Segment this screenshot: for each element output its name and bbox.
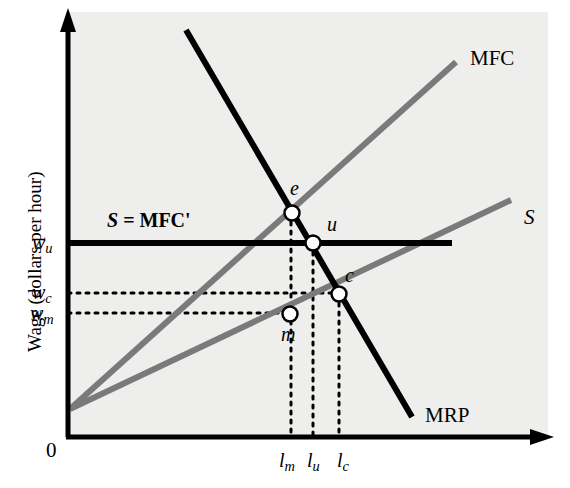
x-tick-label-lm: lm (279, 450, 295, 473)
chart-canvas (0, 0, 570, 488)
y-tick-wc-base: w (32, 281, 45, 303)
y-tick-wu-sub: u (45, 240, 52, 256)
supply-curve-label: S (524, 207, 535, 228)
marker-point-m (283, 307, 298, 322)
origin-label: 0 (46, 440, 57, 461)
union-label-s: S (107, 209, 118, 231)
y-tick-label-wu: wu (32, 232, 53, 255)
marker-point-e (285, 206, 300, 221)
point-label-u: u (327, 214, 337, 234)
mfc-curve-label: MFC (470, 48, 514, 69)
point-label-m: m (281, 324, 295, 344)
y-tick-wu-base: w (32, 231, 45, 253)
union-wage-line-label: S = MFC' (107, 210, 191, 230)
y-tick-label-wm: wm (30, 303, 54, 326)
union-label-rest: = MFC' (118, 209, 191, 231)
marker-point-c (332, 287, 347, 302)
y-tick-wm-base: w (30, 302, 43, 324)
point-label-c: c (345, 265, 354, 285)
point-label-e: e (290, 178, 299, 198)
monopsony-labor-market-diagram: Wage (dollars per hour) 0 wu wc wm lm lu… (0, 0, 570, 488)
x-tick-label-lu: lu (307, 450, 320, 473)
marker-point-u (306, 236, 321, 251)
x-tick-lm-sub: m (285, 458, 295, 474)
mrp-curve-label: MRP (425, 405, 469, 426)
y-tick-wm-sub: m (43, 311, 53, 327)
x-tick-lc-sub: c (343, 458, 349, 474)
x-tick-lu-sub: u (313, 458, 320, 474)
x-tick-label-lc: lc (337, 450, 349, 473)
